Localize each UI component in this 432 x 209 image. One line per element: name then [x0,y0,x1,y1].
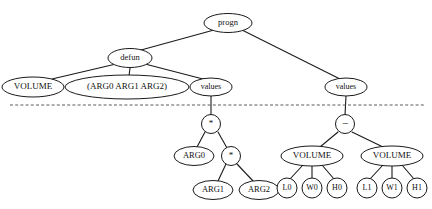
tree-node-volume1[interactable]: VOLUME [281,146,343,166]
tree-node-arg2[interactable]: ARG2 [239,181,279,200]
node-label-mul0: * [209,118,214,128]
tree-node-w1[interactable]: W1 [382,178,402,198]
tree-node-arglist[interactable]: (ARG0 ARG1 ARG2) [65,75,189,99]
tree-edge-mul1-to-arg2 [237,164,253,181]
node-label-l1: L1 [363,183,372,192]
diagram-canvas: progndefunVOLUME(ARG0 ARG1 ARG2)valuesva… [0,0,432,209]
node-label-arg2: ARG2 [248,184,270,194]
node-label-arg0: ARG0 [183,150,205,160]
tree-edge-volume1-to-h0 [322,165,334,179]
node-label-values1: values [336,82,356,91]
tree-edge-progn-to-defun [141,30,214,50]
node-label-arglist: (ARG0 ARG1 ARG2) [87,81,167,91]
tree-node-mul0[interactable]: * [202,115,221,134]
tree-node-volume0[interactable]: VOLUME [2,77,64,97]
node-label-minus: − [342,117,348,129]
tree-node-progn[interactable]: progn [204,14,252,33]
tree-node-arg1[interactable]: ARG1 [193,181,233,200]
tree-edge-minus-to-volume1 [320,132,338,147]
node-label-h1: H1 [412,183,422,192]
tree-node-h0[interactable]: H0 [327,178,347,198]
node-label-volume1: VOLUME [293,150,332,160]
tree-node-values1[interactable]: values [325,78,367,96]
tree-edge-mul0-to-mul1 [218,132,227,148]
node-label-l0: L0 [283,183,292,192]
node-label-volume2: VOLUME [373,150,412,160]
node-label-volume0: VOLUME [14,81,53,91]
tree-node-mul1[interactable]: * [222,147,241,166]
tree-node-minus[interactable]: − [336,115,355,134]
tree-edge-volume1-to-l0 [290,165,303,179]
tree-node-w0[interactable]: W0 [302,178,322,198]
tree-node-defun[interactable]: defun [108,49,152,68]
node-label-arg1: ARG1 [202,184,224,194]
tree-edge-volume2-to-l1 [370,165,383,179]
tree-edge-volume2-to-h1 [402,165,414,179]
node-label-progn: progn [218,17,239,27]
expression-tree-svg: progndefunVOLUME(ARG0 ARG1 ARG2)valuesva… [0,0,432,209]
node-label-defun: defun [120,52,140,62]
tree-edge-mul0-to-arg0 [197,132,205,147]
tree-edge-mul1-to-arg1 [218,164,226,181]
node-label-mul1: * [229,150,234,160]
tree-node-values0[interactable]: values [190,78,232,96]
node-label-w0: W0 [306,183,318,192]
tree-node-arg0[interactable]: ARG0 [174,147,214,166]
tree-edge-minus-to-volume2 [352,132,383,147]
tree-node-volume2[interactable]: VOLUME [361,146,423,166]
node-layer: progndefunVOLUME(ARG0 ARG1 ARG2)valuesva… [2,14,427,200]
tree-node-l1[interactable]: L1 [357,178,377,198]
node-label-w1: W1 [386,183,398,192]
tree-edge-progn-to-values1 [242,30,340,79]
tree-node-l0[interactable]: L0 [277,178,297,198]
node-label-values0: values [201,82,221,91]
node-label-h0: H0 [332,183,342,192]
tree-node-h1[interactable]: H1 [407,178,427,198]
